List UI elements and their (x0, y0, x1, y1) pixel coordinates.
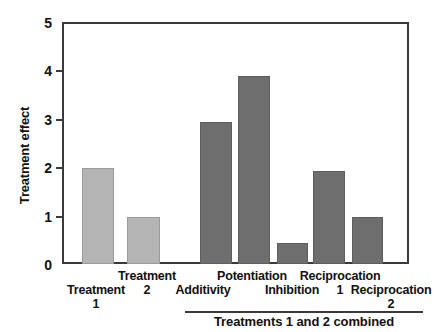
x-label-reciprocation-2: Reciprocation 2 (345, 283, 437, 311)
x-label-potentiation: Potentiation (207, 269, 297, 283)
x-label-additivity: Additivity (168, 283, 238, 297)
bar-inhibition (277, 243, 308, 264)
y-tick-label-5: 5 (30, 16, 52, 30)
bar-potentiation (238, 76, 270, 264)
bar-additivity (200, 122, 232, 264)
y-tick-label-4: 4 (30, 64, 52, 78)
bars-layer (64, 24, 407, 264)
y-tick-label-1: 1 (30, 210, 52, 224)
y-tick-label-3: 3 (30, 113, 52, 127)
group-caption: Treatments 1 and 2 combined (185, 314, 423, 329)
bar-reciprocation-1 (313, 171, 345, 264)
group-bracket (185, 311, 423, 313)
y-tick-label-2: 2 (30, 161, 52, 175)
bar-reciprocation-2 (352, 217, 383, 264)
bar-treatment-1 (82, 168, 114, 264)
y-axis-label: Treatment effect (17, 91, 32, 221)
bar-treatment-2 (127, 217, 160, 264)
bar-chart-figure: Treatment effect 5 4 3 2 1 0 Treatment 1… (0, 0, 440, 332)
y-tick-label-0: 0 (30, 258, 52, 272)
